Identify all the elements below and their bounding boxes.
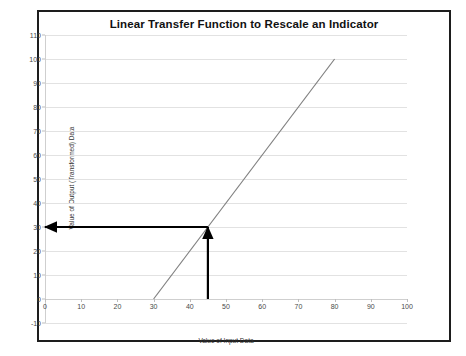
chart-title: Linear Transfer Function to Rescale an I…: [39, 18, 449, 30]
y-tick-label: 30: [33, 224, 41, 231]
gridline: [45, 323, 407, 324]
y-tick-label: 90: [33, 80, 41, 87]
y-tick-label: -10: [31, 320, 41, 327]
y-tick-label: 60: [33, 152, 41, 159]
top-cropped-text-strip: · · ·: [0, 0, 466, 9]
y-tick-label: 40: [33, 200, 41, 207]
y-tick-label: 20: [33, 248, 41, 255]
y-tick-label: 100: [29, 56, 41, 63]
y-tick-label: 110: [30, 32, 41, 39]
series-line: [154, 59, 335, 299]
x-tick-mark: [407, 299, 408, 302]
y-tick-label: 80: [33, 104, 41, 111]
y-tick-label: 10: [33, 272, 41, 279]
top-cropped-text: · · ·: [34, 0, 63, 4]
series-layer: [45, 35, 407, 323]
x-axis-title: Value of Input Data: [45, 337, 407, 344]
y-tick-label: 50: [33, 176, 41, 183]
y-tick-label: 70: [33, 128, 41, 135]
y-tick-label: 0: [37, 296, 41, 303]
plot-area: -100102030405060708090100110 01020304050…: [45, 35, 407, 323]
